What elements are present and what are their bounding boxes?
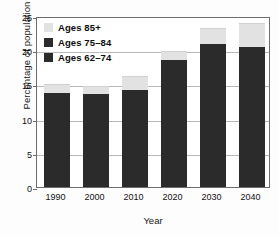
bar-segment (44, 93, 70, 187)
bar-2020 (161, 16, 187, 187)
legend-swatch-icon (44, 53, 53, 62)
legend-label: Ages 85+ (58, 22, 101, 33)
legend-item: Ages 75–84 (44, 36, 111, 49)
bar-segment (122, 76, 148, 90)
x-axis-tick-label: 2010 (123, 192, 143, 202)
x-axis-title: Year (36, 215, 270, 226)
y-axis-tick-label: 15 (7, 81, 32, 91)
y-axis-tick-label: 25 (7, 13, 32, 23)
bar-segment (200, 28, 226, 44)
bar-segment (83, 94, 109, 187)
y-axis-tick-label: 5 (7, 150, 32, 160)
bar-segment (239, 47, 265, 187)
legend-item: Ages 85+ (44, 21, 111, 34)
y-axis-tick-mark (33, 189, 37, 190)
bar-segment (161, 60, 187, 187)
y-axis-tick-label: 10 (7, 116, 32, 126)
bar-segment (161, 51, 187, 60)
x-axis-tick-label: 2000 (84, 192, 104, 202)
bar-segment (239, 23, 265, 48)
y-axis-tick-label: 20 (7, 47, 32, 57)
legend-label: Ages 75–84 (58, 37, 111, 48)
bar-segment (200, 44, 226, 187)
legend-swatch-icon (44, 23, 53, 32)
bar-segment (83, 86, 109, 94)
bar-2030 (200, 16, 226, 187)
bar-chart: Percentage of population 0510152025 1990… (0, 0, 279, 236)
bar-2010 (122, 16, 148, 187)
x-axis-tick-label: 2020 (162, 192, 182, 202)
legend-label: Ages 62–74 (58, 52, 111, 63)
x-axis-tick-label: 1990 (45, 192, 65, 202)
y-axis-tick-label: 0 (7, 184, 32, 194)
legend-item: Ages 62–74 (44, 51, 111, 64)
bar-2040 (239, 16, 265, 187)
bar-segment (44, 84, 70, 93)
x-axis-tick-label: 2030 (201, 192, 221, 202)
x-axis-tick-label: 2040 (240, 192, 260, 202)
chart-legend: Ages 85+Ages 75–84Ages 62–74 (44, 21, 111, 64)
bar-segment (122, 90, 148, 187)
legend-swatch-icon (44, 38, 53, 47)
